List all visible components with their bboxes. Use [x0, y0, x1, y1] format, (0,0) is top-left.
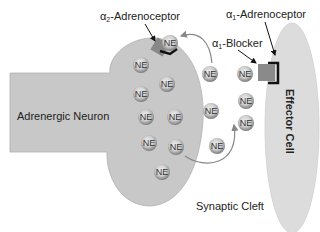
svg-text:NE: NE — [135, 89, 148, 99]
svg-text:NE: NE — [204, 69, 217, 79]
svg-text:NE: NE — [156, 167, 169, 177]
blocker-pointer-arrow — [238, 50, 256, 63]
ne-molecule: NE — [168, 139, 184, 155]
alpha2-adrenoceptor-label: α2-Adrenoceptor — [100, 10, 180, 23]
adrenergic-synapse-diagram: NE NE NE NE NE NE NE NE NE NE NE NE NE N… — [0, 0, 320, 232]
svg-text:NE: NE — [161, 79, 174, 89]
ne-molecule: NE — [202, 66, 218, 82]
ne-molecule: NE — [203, 103, 219, 119]
ne-molecule: NE — [133, 86, 149, 102]
svg-text:NE: NE — [240, 118, 253, 128]
ne-molecule: NE — [209, 138, 225, 154]
svg-text:NE: NE — [240, 96, 253, 106]
svg-text:NE: NE — [140, 112, 153, 122]
svg-text:NE: NE — [211, 141, 224, 151]
ne-molecule: NE — [141, 135, 157, 151]
alpha1-adrenoceptor-label: α1-Adrenoceptor — [226, 8, 306, 21]
svg-text:NE: NE — [205, 106, 218, 116]
svg-text:NE: NE — [170, 142, 183, 152]
svg-text:NE: NE — [239, 69, 252, 79]
synaptic-cleft-label: Synaptic Cleft — [196, 200, 264, 212]
ne-molecule: NE — [138, 109, 154, 125]
effector-cell-label: Effector Cell — [284, 89, 296, 154]
adrenergic-neuron-label: Adrenergic Neuron — [17, 110, 109, 122]
svg-text:NE: NE — [143, 138, 156, 148]
ne-molecule: NE — [154, 164, 170, 180]
svg-text:NE: NE — [135, 60, 148, 70]
ne-molecule: NE — [133, 57, 149, 73]
ne-molecule: NE — [167, 109, 183, 125]
ne-molecule: NE — [159, 76, 175, 92]
ne-molecule: NE — [162, 35, 178, 51]
alpha1-pointer-arrow — [265, 22, 275, 55]
ne-molecule: NE — [238, 115, 254, 131]
ne-molecule: NE — [237, 66, 253, 82]
svg-text:NE: NE — [169, 112, 182, 122]
alpha1-blocker — [258, 64, 275, 81]
alpha1-blocker-label: α1-Blocker — [212, 37, 263, 50]
ne-molecule: NE — [238, 93, 254, 109]
svg-text:NE: NE — [164, 38, 177, 48]
